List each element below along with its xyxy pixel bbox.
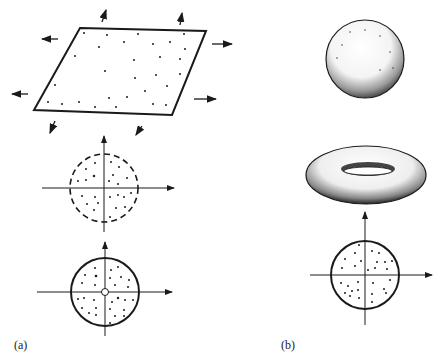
panel-b-label: (b) — [281, 338, 295, 353]
sphere-diagram — [326, 20, 404, 98]
figure-canvas — [0, 0, 443, 360]
torus-diagram — [306, 146, 426, 204]
dashed-disk-diagram — [42, 136, 174, 232]
stretched-plane — [12, 10, 232, 135]
punctured-disk-diagram — [37, 242, 172, 336]
plane-dots — [47, 32, 186, 108]
panel-a-label: (a) — [14, 338, 27, 353]
disk-diagram-b — [310, 212, 432, 325]
